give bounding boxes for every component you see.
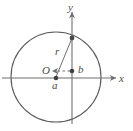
radius-label: r <box>55 46 59 57</box>
origin-label: O <box>42 65 50 76</box>
dashed-connector-arrowhead <box>52 68 58 74</box>
point-b-dot <box>70 69 75 74</box>
radius-endpoint-dot <box>70 36 75 41</box>
point-b-label: b <box>78 64 84 75</box>
figure-canvas <box>0 0 133 131</box>
y-axis-label: y <box>68 2 73 13</box>
point-a-label: a <box>52 80 58 91</box>
geometry-figure: y x r O b a <box>0 0 133 131</box>
x-axis-label: x <box>119 73 124 84</box>
